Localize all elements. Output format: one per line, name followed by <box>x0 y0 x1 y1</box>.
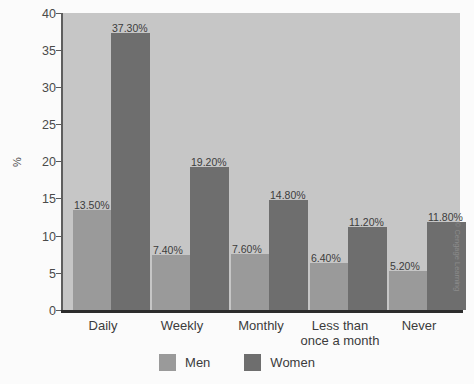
bar-women-weekly[interactable] <box>190 167 229 310</box>
bar-men-monthly[interactable] <box>231 254 269 310</box>
x-category-label-never-line1: Never <box>374 318 464 333</box>
bar-women-daily[interactable] <box>111 33 150 310</box>
bar-women-monthly[interactable] <box>269 200 308 310</box>
bar-label-men-weekly: 7.40% <box>153 245 183 256</box>
bar-women-less-than-once-a-month[interactable] <box>348 227 387 310</box>
y-axis-line <box>61 13 63 310</box>
bar-chart-figure: % 40 35 30 25 20 15 10 5 0 13.50% 37.30%… <box>0 0 474 384</box>
x-category-label-daily-line1: Daily <box>58 318 148 333</box>
plot-area: 13.50% 37.30% 7.40% 19.20% 7.60% 14.80% … <box>63 13 460 310</box>
x-category-label-never: Never <box>374 318 464 333</box>
attribution-text: © Cengage Learning <box>453 212 462 302</box>
x-category-label-weekly: Weekly <box>137 318 227 333</box>
x-category-label-less-than-line1: Less than <box>295 318 385 333</box>
y-tick-label-5: 5 <box>18 268 56 281</box>
x-axis-line <box>61 310 463 313</box>
y-tick-label-40: 40 <box>18 8 56 21</box>
y-tick-label-15: 15 <box>18 193 56 206</box>
y-tick-label-25: 25 <box>18 119 56 132</box>
bar-label-men-monthly: 7.60% <box>232 244 262 255</box>
y-tick-label-30: 30 <box>18 82 56 95</box>
bar-men-daily[interactable] <box>73 210 111 310</box>
bar-label-women-monthly: 14.80% <box>270 190 306 201</box>
y-tick-label-20: 20 <box>18 156 56 169</box>
y-tick-label-10: 10 <box>18 231 56 244</box>
bar-label-women-daily: 37.30% <box>112 23 148 34</box>
x-category-label-monthly: Monthly <box>216 318 306 333</box>
legend-swatch-men-icon <box>159 354 176 371</box>
legend-item-women[interactable]: Women <box>244 354 315 371</box>
legend-label-women: Women <box>270 355 315 370</box>
bar-label-men-never: 5.20% <box>390 261 420 272</box>
y-tick-label-0: 0 <box>18 305 56 318</box>
x-category-label-monthly-line1: Monthly <box>216 318 306 333</box>
legend-item-men[interactable]: Men <box>159 354 210 371</box>
x-category-label-daily: Daily <box>58 318 148 333</box>
bar-men-less-than-once-a-month[interactable] <box>310 263 348 311</box>
legend-swatch-women-icon <box>244 354 261 371</box>
x-category-label-less-than-once-a-month: Less than once a month <box>295 318 385 348</box>
x-category-label-less-than-line2: once a month <box>295 333 385 348</box>
chart-legend: Men Women <box>0 354 474 371</box>
x-category-label-weekly-line1: Weekly <box>137 318 227 333</box>
bar-label-women-weekly: 19.20% <box>191 157 227 168</box>
bar-label-women-less-than-once-a-month: 11.20% <box>349 217 384 228</box>
bar-men-never[interactable] <box>389 271 427 310</box>
bar-label-men-less-than-once-a-month: 6.40% <box>311 253 341 264</box>
y-tick-label-35: 35 <box>18 45 56 58</box>
bar-men-weekly[interactable] <box>152 255 190 310</box>
bar-label-men-daily: 13.50% <box>74 200 110 211</box>
legend-label-men: Men <box>185 355 210 370</box>
